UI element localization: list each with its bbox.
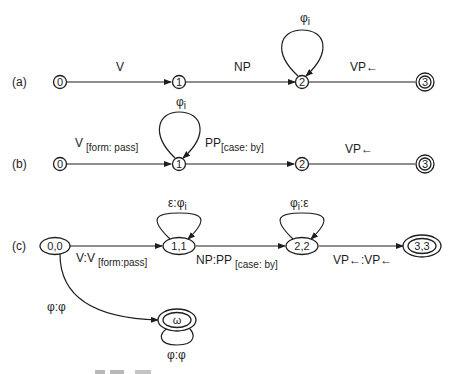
caption-fragment xyxy=(135,370,151,374)
loop-label-phi-i: φi xyxy=(176,95,186,111)
caption-fragment xyxy=(95,370,105,374)
state-label: 1,1 xyxy=(171,240,186,252)
transducer-diagram: (a) V NP φi VP← 0 1 2 3 (b) V[form: pass… xyxy=(0,0,451,374)
loop-label-eps-phi: ε:φi xyxy=(168,196,187,212)
state-label: 3 xyxy=(422,158,428,170)
state-label: 0 xyxy=(57,76,63,88)
edge-label-vp: VP← xyxy=(345,142,373,156)
state-label: 2,2 xyxy=(294,240,309,252)
edge-label-phi-phi: φ:φ xyxy=(47,300,66,314)
state-label: 2 xyxy=(299,158,305,170)
loop-c-11 xyxy=(157,213,201,239)
edge-label-vp: VP← xyxy=(350,60,378,74)
loop-label-phi-main: φi xyxy=(300,11,310,27)
panel-b: (b) V[form: pass] φi PP[case: by] VP← 0 … xyxy=(12,95,434,173)
edge-label-np: NP xyxy=(234,60,251,74)
state-label: 3,3 xyxy=(414,240,429,252)
edge-label-np-pp-case-by: NP:PP[case: by] xyxy=(196,253,278,270)
state-label: ω xyxy=(173,314,182,326)
state-label: 3 xyxy=(422,76,428,88)
edge-label-v-form-pass: V[form: pass] xyxy=(75,136,138,153)
loop-b-1 xyxy=(159,112,200,158)
panel-c: (c) ε:φi φi:ε V:V[form:pass] NP:PP[case:… xyxy=(12,196,441,362)
caption-fragment xyxy=(110,370,124,374)
panel-label-b: (b) xyxy=(12,157,27,171)
loop-a-2 xyxy=(282,30,323,76)
edge-label-pp-case-by: PP[case: by] xyxy=(205,136,264,153)
state-label: 2 xyxy=(299,76,305,88)
panel-a: (a) V NP φi VP← 0 1 2 3 xyxy=(12,11,434,91)
loop-label-phi-eps: φi:ε xyxy=(290,196,309,212)
state-label: 1 xyxy=(176,158,182,170)
state-label: 0,0 xyxy=(47,240,62,252)
edge-label-v: V xyxy=(116,60,124,74)
loop-label-phi-phi: φ:φ xyxy=(167,348,186,362)
state-label: 1 xyxy=(176,76,182,88)
loop-c-22 xyxy=(280,213,324,239)
panel-label-a: (a) xyxy=(12,75,27,89)
state-label: 0 xyxy=(57,158,63,170)
edge-label-vp-vp: VP←:VP← xyxy=(333,253,392,267)
edge-label-vv-form-pass: V:V[form:pass] xyxy=(76,251,148,268)
panel-label-c: (c) xyxy=(12,239,26,253)
